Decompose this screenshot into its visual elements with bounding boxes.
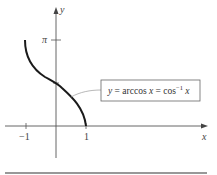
arccos-graph: y x π −1 1 y = arccos x = cos−1 x xyxy=(0,0,217,175)
y-tick-label-pi: π xyxy=(42,34,48,45)
arccos-curve xyxy=(25,40,86,126)
label-connector xyxy=(71,90,101,97)
x-axis-label: x xyxy=(201,131,207,142)
y-axis-label: y xyxy=(59,4,65,15)
x-tick-label-neg-one: −1 xyxy=(19,131,30,142)
x-tick-label-one: 1 xyxy=(84,131,89,142)
x-axis-arrow-icon xyxy=(201,124,208,129)
y-axis-arrow-icon xyxy=(54,7,59,14)
